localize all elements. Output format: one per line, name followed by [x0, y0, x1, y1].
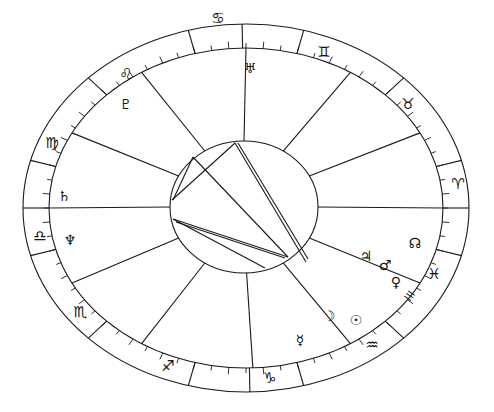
- house-cusp: [49, 207, 170, 208]
- sign-taurus-icon: ♉: [401, 95, 414, 113]
- sign-libra-icon: ♎: [33, 227, 46, 245]
- aspect-lines: [172, 143, 308, 268]
- house-cusp: [72, 133, 179, 176]
- planet-pluto-icon: ♇: [120, 96, 133, 112]
- house-cusp: [283, 263, 350, 344]
- sign-sagittarius-icon: ♐: [161, 357, 174, 375]
- planet-node-icon: ☊: [409, 235, 421, 251]
- house-cusp: [309, 133, 420, 176]
- planet-mars-icon: ♂: [379, 257, 392, 273]
- planet-moon-icon: ☽: [323, 308, 336, 324]
- sign-scorpio-icon: ♏: [73, 303, 87, 321]
- house-cusp: [142, 263, 205, 344]
- house-cusp: [72, 238, 179, 283]
- planet-uranus-icon: ♅: [244, 60, 257, 76]
- house-markers: III: [402, 288, 418, 303]
- sign-aries-icon: ♈: [451, 175, 464, 193]
- sign-cancer-icon: ♋: [211, 9, 224, 27]
- chart-wheel: [23, 24, 469, 392]
- house-marker-label: III: [402, 288, 418, 303]
- sign-aquarius-icon: ♒: [365, 336, 378, 354]
- sign-pisces-icon: ♓: [427, 265, 440, 283]
- sign-capricorn-icon: ♑: [263, 369, 276, 387]
- sign-leo-icon: ♌: [119, 65, 132, 83]
- aspect-circle: [170, 141, 318, 273]
- house-cusp: [142, 72, 205, 151]
- planet-glyphs: ♅♇♄♆♃♂♀☊☽☉☿: [58, 60, 422, 348]
- house-cusp: [283, 72, 350, 151]
- planet-saturn-icon: ♄: [58, 188, 71, 204]
- house-cusp: [247, 273, 253, 368]
- natal-chart: ♋♊♉♈♓♒♑♐♏♎♍♌ ♅♇♄♆♃♂♀☊☽☉☿ III: [0, 0, 494, 412]
- planet-neptune-icon: ♆: [64, 232, 77, 248]
- sign-virgo-icon: ♍: [45, 134, 58, 152]
- planet-mercury-icon: ☿: [296, 332, 305, 348]
- sign-gemini-icon: ♊: [317, 43, 330, 61]
- planet-sun-icon: ☉: [350, 312, 363, 328]
- house-cusp: [318, 207, 443, 208]
- planet-venus-icon: ♀: [391, 274, 401, 290]
- planet-jupiter-icon: ♃: [360, 248, 373, 264]
